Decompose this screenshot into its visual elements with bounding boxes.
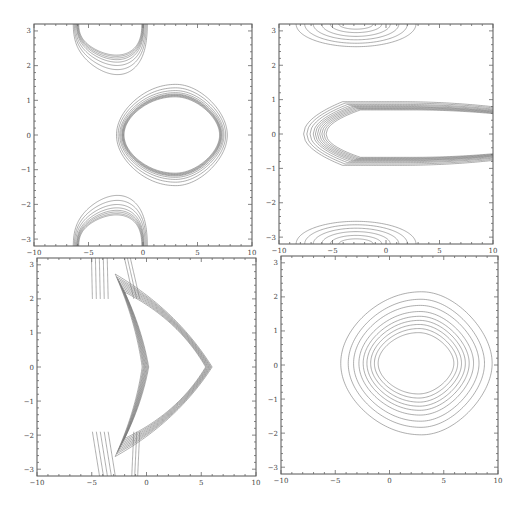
x-tick-label: −5 bbox=[330, 477, 340, 485]
y-tick-label: 2 bbox=[274, 293, 278, 301]
y-tick-label: 2 bbox=[30, 295, 34, 303]
x-tick-label: 10 bbox=[489, 247, 498, 255]
y-tick-label: −1 bbox=[21, 166, 31, 174]
contour-line bbox=[78, 214, 142, 246]
contour-line bbox=[96, 432, 104, 480]
contour-family-nested-rounded-triangles bbox=[341, 292, 492, 435]
x-tick-label: 5 bbox=[195, 249, 199, 257]
x-tick-label: −10 bbox=[272, 247, 287, 255]
contour-line bbox=[339, 24, 373, 29]
contour-family-tail-lines bbox=[91, 251, 139, 479]
contour-line bbox=[326, 110, 498, 157]
contour-line bbox=[324, 109, 498, 158]
contour-family-central-elongated-loop bbox=[304, 102, 499, 166]
y-tick-label: 1 bbox=[27, 97, 31, 105]
y-tick-label: 2 bbox=[272, 62, 276, 70]
contour-line bbox=[322, 232, 390, 244]
y-tick-label: 3 bbox=[27, 27, 31, 35]
y-tick-label: 2 bbox=[27, 62, 31, 70]
x-tick-label: 0 bbox=[141, 249, 145, 257]
y-tick-label: −2 bbox=[21, 201, 31, 209]
y-tick-label: −2 bbox=[24, 432, 34, 440]
contour-line bbox=[322, 24, 390, 36]
y-tick-label: −3 bbox=[24, 466, 34, 474]
contour-family-top-partial-triangle bbox=[73, 24, 147, 75]
contour-group bbox=[91, 251, 212, 479]
contour-line bbox=[92, 432, 100, 480]
contour-line bbox=[78, 24, 142, 56]
plot-panel-top-right: −10−50510−3−2−10123 bbox=[266, 24, 499, 255]
x-tick-label: 10 bbox=[252, 479, 261, 487]
contour-line bbox=[117, 277, 212, 454]
contour-line bbox=[117, 84, 228, 185]
contour-line bbox=[363, 316, 469, 410]
contour-line bbox=[378, 333, 454, 394]
y-tick-label: 1 bbox=[274, 327, 278, 335]
contour-line bbox=[119, 281, 210, 449]
y-tick-label: −3 bbox=[21, 236, 31, 244]
y-tick-label: 3 bbox=[274, 259, 278, 267]
x-tick-label: 0 bbox=[144, 479, 148, 487]
contour-family-bottom-partial-triangle bbox=[73, 195, 147, 246]
y-tick-label: 0 bbox=[27, 132, 31, 140]
x-tick-label: −10 bbox=[27, 249, 42, 257]
x-tick-label: 0 bbox=[387, 477, 391, 485]
x-tick-label: 10 bbox=[248, 249, 257, 257]
contour-line bbox=[108, 432, 116, 480]
y-tick-label: −2 bbox=[268, 430, 278, 438]
x-tick-label: 5 bbox=[437, 247, 441, 255]
contour-line bbox=[120, 283, 209, 447]
y-tick-label: 0 bbox=[30, 364, 34, 372]
contour-line bbox=[115, 274, 212, 456]
contour-line bbox=[374, 329, 457, 398]
contour-line bbox=[322, 109, 499, 159]
x-tick-label: −5 bbox=[83, 249, 93, 257]
contour-group bbox=[296, 24, 498, 244]
y-tick-label: 3 bbox=[30, 261, 34, 269]
y-tick-label: −3 bbox=[268, 464, 278, 472]
y-tick-label: −1 bbox=[24, 398, 34, 406]
contour-line bbox=[339, 239, 373, 244]
y-tick-label: −3 bbox=[266, 234, 276, 242]
contour-line bbox=[307, 103, 499, 164]
contour-family-central-rounded-triangle bbox=[117, 84, 228, 185]
contour-line bbox=[354, 305, 479, 421]
plot-panel-bottom-right: −10−50510−3−2−10123 bbox=[268, 256, 503, 485]
plot-frame bbox=[279, 24, 493, 244]
plot-panel-bottom-left: −10−50510−3−2−10123 bbox=[24, 251, 261, 487]
contour-line bbox=[305, 24, 408, 43]
y-tick-label: −1 bbox=[266, 165, 276, 173]
x-tick-label: 0 bbox=[384, 247, 388, 255]
x-tick-label: −5 bbox=[327, 247, 337, 255]
y-tick-label: 1 bbox=[272, 96, 276, 104]
plot-frame bbox=[34, 24, 252, 246]
x-tick-label: −5 bbox=[87, 479, 97, 487]
contour-family-chevron-loop bbox=[115, 274, 212, 456]
contour-line bbox=[118, 88, 226, 182]
contour-line bbox=[104, 432, 112, 480]
contour-line bbox=[371, 324, 462, 402]
x-tick-label: 10 bbox=[494, 477, 503, 485]
contour-family-bottom-half-ellipses bbox=[296, 221, 416, 244]
x-tick-label: −10 bbox=[30, 479, 45, 487]
contour-family-top-half-ellipses bbox=[296, 24, 416, 47]
contour-line bbox=[348, 299, 484, 427]
contour-line bbox=[121, 286, 208, 446]
contour-line bbox=[100, 432, 108, 480]
contour-line bbox=[120, 91, 224, 180]
contour-line bbox=[367, 320, 465, 406]
contour-line bbox=[305, 225, 408, 244]
contour-figure: −10−50510−3−2−10123−10−50510−3−2−10123−1… bbox=[0, 0, 524, 510]
y-tick-label: −1 bbox=[268, 396, 278, 404]
y-tick-label: 3 bbox=[272, 27, 276, 35]
y-tick-label: 1 bbox=[30, 329, 34, 337]
contour-line bbox=[330, 235, 381, 244]
y-tick-label: 0 bbox=[272, 131, 276, 139]
contour-line bbox=[330, 24, 381, 33]
y-tick-label: 0 bbox=[274, 362, 278, 370]
contour-group bbox=[341, 292, 492, 435]
x-tick-label: 5 bbox=[199, 479, 203, 487]
contour-group bbox=[73, 24, 227, 246]
x-tick-label: 5 bbox=[442, 477, 446, 485]
y-tick-label: −2 bbox=[266, 199, 276, 207]
